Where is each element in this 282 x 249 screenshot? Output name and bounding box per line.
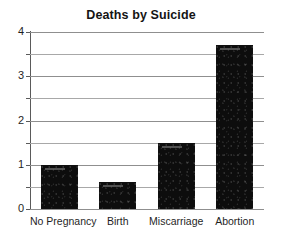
- y-tick-2: [26, 121, 30, 122]
- y-tick-1-5: [26, 143, 30, 144]
- y-tick-4: [26, 32, 30, 33]
- plot-area: [30, 32, 264, 209]
- bar-highlight: [103, 185, 122, 187]
- x-axis-label-no-pregnancy: No Pregnancy: [30, 215, 89, 227]
- y-axis-label-2: 2: [8, 114, 24, 126]
- x-axis-label-abortion: Abortion: [206, 215, 265, 227]
- y-axis-label-3: 3: [8, 69, 24, 81]
- y-axis-label-0: 0: [8, 202, 24, 214]
- y-axis-label-1: 1: [8, 158, 24, 170]
- bar-abortion: [216, 45, 253, 209]
- chart-title: Deaths by Suicide: [0, 8, 282, 22]
- y-tick-2-5: [26, 98, 30, 99]
- y-tick-1: [26, 165, 30, 166]
- bar-highlight: [220, 48, 239, 50]
- gridline-0: [30, 209, 264, 210]
- bar-highlight: [45, 168, 64, 170]
- x-axis-label-miscarriage: Miscarriage: [147, 215, 206, 227]
- y-tick-0: [26, 209, 30, 210]
- y-tick-3: [26, 76, 30, 77]
- bar-chart-figure: Deaths by Suicide 01234 No PregnancyBirt…: [0, 0, 282, 249]
- bar-no-pregnancy: [41, 165, 78, 209]
- gridline-4: [30, 32, 264, 33]
- bar-highlight: [162, 146, 181, 148]
- y-tick-3-5: [26, 54, 30, 55]
- y-tick-0-5: [26, 187, 30, 188]
- bar-birth: [99, 182, 136, 209]
- x-axis-label-birth: Birth: [89, 215, 148, 227]
- bar-miscarriage: [158, 143, 195, 209]
- y-axis-label-4: 4: [8, 25, 24, 37]
